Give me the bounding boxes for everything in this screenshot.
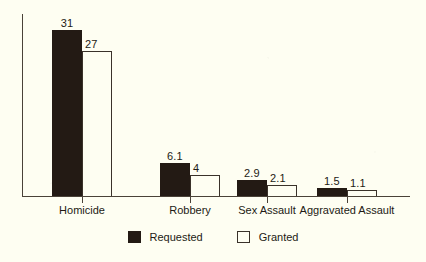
bar-granted-homicide: 27	[82, 51, 112, 196]
bar-requested-aggravated-assault: 1.5	[317, 188, 347, 196]
bar-granted-sex-assault: 2.1	[267, 185, 297, 196]
legend-item-requested: Requested	[128, 231, 203, 243]
x-axis-category-label: Aggravated Assault	[300, 204, 395, 217]
bar-value-label: 6.1	[167, 151, 183, 164]
bar-requested-robbery: 6.1	[160, 163, 190, 196]
x-axis-tick	[82, 197, 83, 203]
x-axis-tick	[267, 197, 268, 203]
bar-granted-aggravated-assault: 1.1	[347, 190, 377, 196]
outline-square-icon	[237, 231, 250, 243]
x-axis-category-label: Homicide	[59, 204, 105, 217]
bar-value-label: 4	[193, 163, 199, 176]
legend-item-label: Granted	[259, 231, 299, 243]
plot-area: 31276.142.92.11.51.1	[22, 14, 410, 196]
filled-square-icon	[128, 231, 141, 243]
x-axis-line	[22, 196, 410, 197]
bar-granted-robbery: 4	[190, 175, 220, 196]
bar-value-label: 27	[85, 39, 98, 52]
bar-value-label: 2.1	[270, 173, 286, 186]
x-axis-tick	[190, 197, 191, 203]
legend-item-granted: Granted	[237, 231, 299, 243]
x-axis-tick	[347, 197, 348, 203]
bar-requested-homicide: 31	[52, 30, 82, 196]
legend-item-label: Requested	[150, 231, 203, 243]
x-axis-category-label: Sex Assault	[238, 204, 295, 217]
bar-chart: 31276.142.92.11.51.1 HomicideRobberySex …	[0, 0, 426, 262]
chart-legend: Requested Granted	[0, 231, 426, 243]
bar-value-label: 1.1	[350, 178, 366, 191]
x-axis-category-label: Robbery	[169, 204, 211, 217]
bar-value-label: 31	[61, 18, 74, 31]
bar-requested-sex-assault: 2.9	[237, 180, 267, 196]
bar-value-label: 2.9	[244, 168, 260, 181]
bar-value-label: 1.5	[324, 176, 340, 189]
